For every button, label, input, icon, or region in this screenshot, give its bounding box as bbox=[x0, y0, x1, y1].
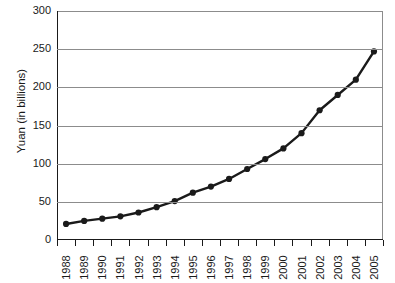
gridline-150 bbox=[57, 126, 383, 127]
x-tick-label: 2002 bbox=[314, 251, 325, 283]
data-point-marker bbox=[117, 213, 123, 219]
data-point-marker bbox=[280, 145, 286, 151]
x-tick-mark bbox=[329, 240, 330, 246]
y-tick-label: 100 bbox=[23, 158, 51, 169]
x-tick-mark bbox=[347, 240, 348, 246]
data-point-marker bbox=[226, 176, 232, 182]
x-tick-label: 1995 bbox=[187, 251, 198, 283]
x-tick-mark bbox=[184, 240, 185, 246]
y-tick-label: 300 bbox=[23, 5, 51, 16]
x-tick-label: 1998 bbox=[242, 251, 253, 283]
line-chart: Yuan (in billions) 050100150200250300 19… bbox=[0, 0, 395, 283]
gridline-100 bbox=[57, 164, 383, 165]
x-tick-mark bbox=[383, 240, 384, 246]
x-tick-label: 2000 bbox=[278, 251, 289, 283]
x-tick-mark bbox=[129, 240, 130, 246]
x-axis-tick-labels: 1988198919901991199219931994199519961997… bbox=[57, 247, 383, 283]
data-point-marker bbox=[298, 130, 304, 136]
data-point-marker bbox=[154, 204, 160, 210]
gridline-250 bbox=[57, 49, 383, 50]
y-axis-tick-labels: 050100150200250300 bbox=[22, 0, 51, 283]
x-tick-mark bbox=[93, 240, 94, 246]
x-tick-label: 1997 bbox=[224, 251, 235, 283]
x-tick-mark bbox=[148, 240, 149, 246]
x-tick-mark bbox=[274, 240, 275, 246]
series-line bbox=[66, 51, 374, 224]
data-point-marker bbox=[208, 183, 214, 189]
y-tick-label: 200 bbox=[23, 81, 51, 92]
data-point-marker bbox=[262, 156, 268, 162]
x-tick-label: 2001 bbox=[296, 251, 307, 283]
x-tick-mark bbox=[220, 240, 221, 246]
data-point-marker bbox=[244, 166, 250, 172]
x-tick-label: 1994 bbox=[169, 251, 180, 283]
x-tick-mark bbox=[75, 240, 76, 246]
y-tick-label: 250 bbox=[23, 43, 51, 54]
x-tick-mark bbox=[256, 240, 257, 246]
x-tick-mark bbox=[292, 240, 293, 246]
data-point-marker bbox=[99, 216, 105, 222]
x-tick-label: 1992 bbox=[133, 251, 144, 283]
gridline-50 bbox=[57, 202, 383, 203]
x-tick-mark bbox=[202, 240, 203, 246]
data-point-marker bbox=[135, 209, 141, 215]
data-point-marker bbox=[317, 107, 323, 113]
x-tick-mark bbox=[311, 240, 312, 246]
x-tick-label: 1991 bbox=[115, 251, 126, 283]
data-point-marker bbox=[190, 190, 196, 196]
x-tick-mark bbox=[365, 240, 366, 246]
x-tick-mark bbox=[238, 240, 239, 246]
y-tick-label: 50 bbox=[23, 196, 51, 207]
x-tick-label: 2005 bbox=[368, 251, 379, 283]
x-tick-label: 1988 bbox=[61, 251, 72, 283]
data-point-marker bbox=[63, 221, 69, 227]
x-tick-label: 1990 bbox=[97, 251, 108, 283]
x-tick-mark bbox=[166, 240, 167, 246]
x-tick-label: 1996 bbox=[205, 251, 216, 283]
y-tick-label: 0 bbox=[23, 234, 51, 245]
x-tick-mark bbox=[57, 240, 58, 246]
x-tick-mark bbox=[111, 240, 112, 246]
gridline-200 bbox=[57, 87, 383, 88]
x-tick-label: 1989 bbox=[79, 251, 90, 283]
data-point-marker bbox=[335, 92, 341, 98]
plot-area bbox=[57, 11, 383, 240]
data-point-marker bbox=[81, 218, 87, 224]
x-tick-label: 2003 bbox=[332, 251, 343, 283]
data-point-marker bbox=[353, 77, 359, 83]
x-tick-label: 2004 bbox=[350, 251, 361, 283]
x-tick-label: 1999 bbox=[260, 251, 271, 283]
y-tick-label: 150 bbox=[23, 120, 51, 131]
x-tick-label: 1993 bbox=[151, 251, 162, 283]
x-axis-ticks bbox=[57, 240, 383, 247]
